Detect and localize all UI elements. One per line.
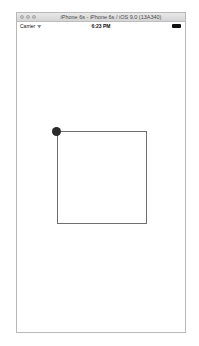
minimize-button[interactable] xyxy=(26,15,30,19)
zoom-button[interactable] xyxy=(32,15,36,19)
status-bar: Carrier ᯤ 6:23 PM xyxy=(17,22,185,31)
window-title: iPhone 6s - iPhone 6s / iOS 9.0 (13A340) xyxy=(39,13,183,21)
close-button[interactable] xyxy=(20,15,24,19)
title-bar[interactable]: iPhone 6s - iPhone 6s / iOS 9.0 (13A340) xyxy=(17,13,185,22)
battery-icon xyxy=(172,24,181,28)
drag-handle-dot[interactable] xyxy=(52,127,61,136)
clock: 6:23 PM xyxy=(17,23,185,29)
square-shape[interactable] xyxy=(57,131,147,224)
window-controls xyxy=(20,15,36,19)
